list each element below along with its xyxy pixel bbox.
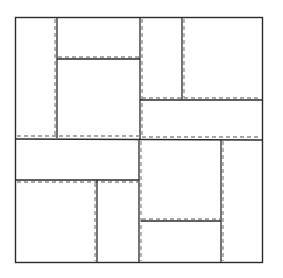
rectangle-partition-diagram bbox=[0, 0, 283, 278]
diagram-canvas bbox=[0, 0, 283, 278]
solid-partition-lines bbox=[16, 18, 263, 263]
